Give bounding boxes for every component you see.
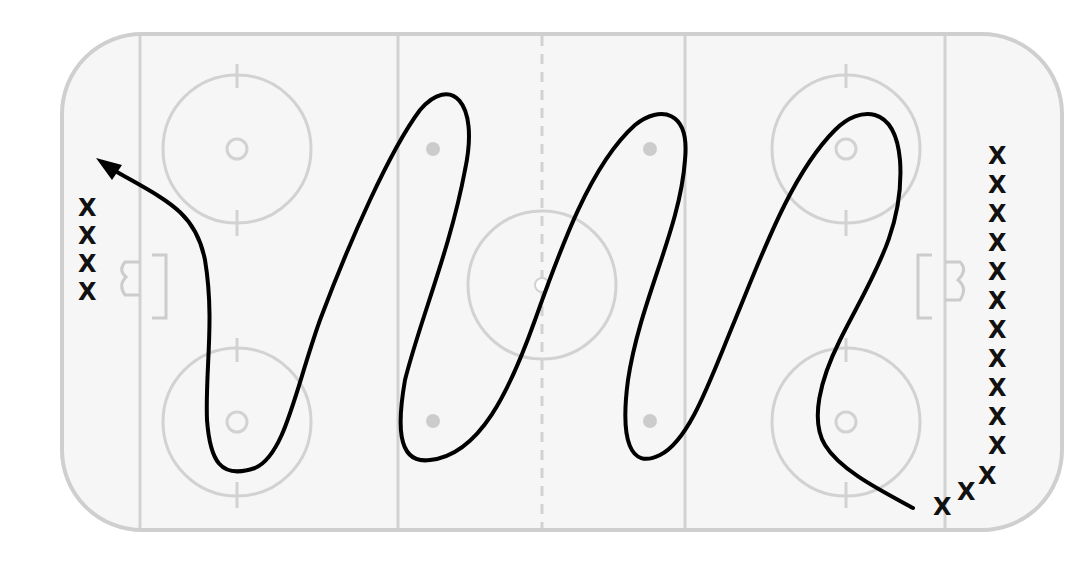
player-x: X	[988, 142, 1007, 170]
player-x: X	[78, 194, 97, 222]
left-player-group: X X X X	[78, 194, 97, 306]
player-x: X	[988, 200, 1007, 228]
player-x: X	[978, 462, 997, 490]
neutral-dot-bottom-left	[426, 414, 440, 428]
player-x: X	[988, 258, 1007, 286]
player-x: X	[988, 432, 1007, 460]
player-x: X	[78, 222, 97, 250]
neutral-dot-bottom-right	[643, 414, 657, 428]
player-x: X	[988, 287, 1007, 315]
player-x: X	[988, 374, 1007, 402]
player-x: X	[78, 278, 97, 306]
player-x: X	[988, 171, 1007, 199]
player-x: X	[957, 478, 976, 506]
neutral-dot-top-right	[643, 142, 657, 156]
player-x: X	[933, 493, 952, 521]
neutral-dot-top-left	[426, 142, 440, 156]
player-x: X	[78, 250, 97, 278]
hockey-rink-diagram: X X X X X X X X X X X X X X X X X X	[0, 0, 1072, 564]
player-x: X	[988, 316, 1007, 344]
player-x: X	[988, 345, 1007, 373]
player-x: X	[988, 229, 1007, 257]
player-x: X	[988, 403, 1007, 431]
